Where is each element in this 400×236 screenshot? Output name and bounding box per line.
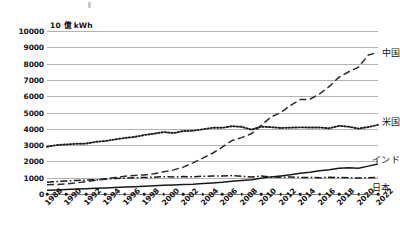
series-lines (47, 31, 378, 194)
y-axis-tick-label: 3000 (24, 141, 44, 150)
y-axis-tick-label: 7000 (24, 75, 44, 84)
series-line-0 (47, 52, 378, 185)
y-axis-tick-label: 6000 (24, 92, 44, 101)
y-axis-tick-label: 1000 (24, 173, 44, 182)
y-axis-tick-label: 0 (39, 190, 44, 199)
series-label-0: 中国 (382, 46, 400, 59)
plot-area (47, 31, 378, 194)
series-label-2: インド (372, 153, 400, 166)
y-axis-tick-label: 10000 (18, 27, 44, 36)
y-axis-tick-label: 8000 (24, 59, 44, 68)
series-label-1: 米国 (382, 115, 400, 128)
series-label-3: 日本 (372, 181, 390, 194)
y-axis-tick-label: 4000 (24, 124, 44, 133)
y-axis-tick-label: 2000 (24, 157, 44, 166)
y-axis-tick-label: 9000 (24, 43, 44, 52)
y-axis-tick-label: 5000 (24, 108, 44, 117)
y-axis-title: 10 億 kWh (50, 19, 93, 30)
series-line-3 (47, 176, 378, 183)
artifact-speck (88, 2, 91, 8)
series-line-1 (47, 125, 378, 147)
